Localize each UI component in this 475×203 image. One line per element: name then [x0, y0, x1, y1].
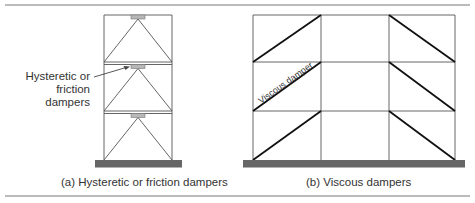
- damper-story-1: [131, 114, 145, 118]
- ground-slab-a: [95, 160, 182, 168]
- damper-story-2: [131, 65, 145, 69]
- annotation-line-1: Hysteretic or: [20, 70, 90, 83]
- caption-a: (a) Hysteretic or friction dampers: [61, 176, 228, 188]
- ground-slab-b: [243, 160, 465, 168]
- annotation-arrow: [94, 66, 130, 77]
- damper-story-3: [131, 15, 145, 19]
- hysteretic-annotation: Hysteretic or friction dampers: [20, 70, 90, 109]
- frame-a: [104, 15, 172, 160]
- caption-b: (b) Viscous dampers: [306, 176, 411, 188]
- hysteretic-dampers: [131, 15, 145, 118]
- viscous-damper-label: Viscous damper: [256, 60, 314, 106]
- annotation-line-2: friction dampers: [20, 83, 90, 109]
